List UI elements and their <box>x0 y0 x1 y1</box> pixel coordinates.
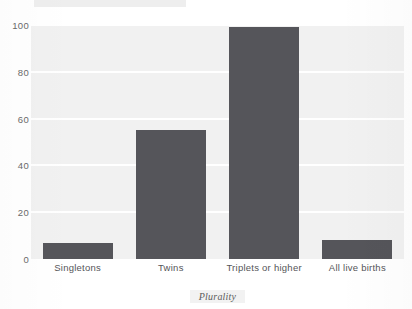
y-axis: 020406080100 <box>0 25 29 259</box>
x-axis-baseline <box>31 259 404 260</box>
y-tick-label-80: 80 <box>3 66 29 77</box>
bar <box>43 243 113 259</box>
bar <box>229 27 299 259</box>
cut-off-title-strip <box>34 0 186 7</box>
y-tick-label-20: 20 <box>3 207 29 218</box>
x-axis-title-wrapper: Plurality <box>31 286 404 304</box>
y-tick-label-0: 0 <box>3 254 29 265</box>
x-tick-label: All live births <box>311 262 404 273</box>
x-tick-label: Twins <box>124 262 217 273</box>
x-axis-title: Plurality <box>190 290 245 303</box>
plot-area <box>31 25 404 259</box>
y-tick-label-60: 60 <box>3 113 29 124</box>
bar <box>136 130 206 259</box>
x-tick-label: Singletons <box>31 262 124 273</box>
y-tick-label-40: 40 <box>3 160 29 171</box>
bar-chart-figure: 020406080100 SingletonsTwinsTriplets or … <box>0 0 412 309</box>
bar <box>322 240 392 259</box>
x-axis: SingletonsTwinsTriplets or higherAll liv… <box>31 262 404 280</box>
x-tick-label: Triplets or higher <box>218 262 311 273</box>
bars-group <box>31 25 404 259</box>
y-tick-label-100: 100 <box>3 20 29 31</box>
